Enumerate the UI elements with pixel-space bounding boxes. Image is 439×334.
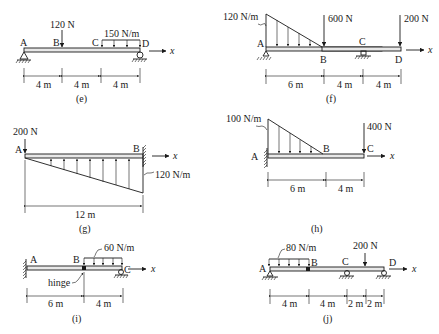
- span-label: 4 m: [337, 79, 353, 90]
- fixed-support-a: [23, 259, 26, 279]
- x-axis-label: x: [427, 44, 433, 55]
- distributed-load: [25, 158, 154, 193]
- span-label: 4 m: [376, 79, 392, 90]
- span-label: 2 m: [348, 298, 364, 309]
- span-label: 4 m: [36, 79, 52, 90]
- roller-support-d: [132, 52, 147, 62]
- diagram-g: 200 N 120 N/m A B x 12 m (g): [13, 126, 191, 235]
- hinge-marker: [306, 267, 310, 271]
- x-axis-label: x: [169, 45, 175, 56]
- distributed-load-label: 150 N/m: [104, 28, 140, 39]
- beam-e: [24, 48, 140, 52]
- point-load-label: 120 N: [50, 19, 75, 30]
- point-label-c: C: [367, 143, 374, 154]
- caption-f: (f): [326, 93, 336, 105]
- pin-support-a: [16, 52, 31, 63]
- distributed-load: [258, 14, 322, 47]
- roller-support-d: [376, 271, 391, 280]
- distributed-load-label: 60 N/m: [104, 242, 135, 253]
- beam-h: [268, 154, 364, 158]
- point-load-label: 200 N: [353, 240, 378, 251]
- point-load-label: 200 N: [13, 126, 38, 137]
- roller-support-c: [355, 51, 371, 59]
- point-label-b: B: [73, 254, 80, 265]
- span-label: 6 m: [290, 183, 306, 194]
- point-load-label: 400 N: [367, 121, 392, 132]
- beam-g: [25, 154, 143, 158]
- diagram-e: 120 N 150 N/m A B C D x 4 m 4 m 4 m: [16, 19, 175, 105]
- point-label-b: B: [133, 143, 140, 154]
- diagram-h: 100 N/m 400 N A B C x 6 m 4 m (h): [226, 113, 395, 235]
- point-label-d: D: [142, 38, 149, 49]
- diagram-i: hinge 60 N/m A B C x 6 m: [23, 242, 156, 325]
- distributed-load-label: 120 N/m: [223, 11, 259, 22]
- distributed-load: [102, 40, 140, 47]
- hinge-label: hinge: [48, 277, 71, 288]
- point-label-a: A: [251, 151, 259, 162]
- hinge-marker: [82, 266, 86, 270]
- roller-support-c: [339, 271, 354, 280]
- dimension-lines: [25, 160, 143, 213]
- point-label-d: D: [395, 54, 402, 65]
- x-axis-label: x: [150, 263, 156, 274]
- point-label-b: B: [311, 257, 318, 268]
- span-label: 6 m: [288, 79, 304, 90]
- pin-support-a: [257, 51, 271, 60]
- point-label-c: C: [124, 264, 131, 275]
- point-label-c: C: [359, 36, 366, 47]
- span-label: 4 m: [320, 298, 336, 309]
- point-label-a: A: [257, 38, 265, 49]
- span-label: 12 m: [75, 209, 96, 220]
- point-label-a: A: [30, 254, 38, 265]
- span-label: 4 m: [96, 298, 112, 309]
- x-axis-label: x: [172, 150, 178, 161]
- x-axis-label: x: [411, 263, 417, 274]
- beam-i: [27, 266, 122, 270]
- beam-j: [270, 267, 384, 271]
- distributed-load-label: 120 N/m: [155, 169, 191, 180]
- x-axis-label: x: [389, 150, 395, 161]
- point-label-c: C: [92, 37, 99, 48]
- point-label-a: A: [259, 263, 267, 274]
- point-label-a: A: [20, 37, 28, 48]
- caption-i: (i): [72, 313, 81, 325]
- point-label-d: D: [389, 257, 396, 268]
- span-label: 4 m: [282, 298, 298, 309]
- caption-j: (j): [323, 313, 332, 325]
- distributed-load-label: 100 N/m: [226, 113, 262, 124]
- point-label-a: A: [15, 144, 23, 155]
- diagram-j: 80 N/m 200 N A B C D x 4 m 4 m 2 m 2 m (…: [259, 240, 417, 325]
- span-label: 4 m: [113, 79, 129, 90]
- span-label: 6 m: [48, 298, 64, 309]
- diagram-f: 120 N/m 600 N 200 N A B C D x: [223, 11, 433, 105]
- span-label: 2 m: [367, 298, 383, 309]
- beam-diagrams: 120 N 150 N/m A B C D x 4 m 4 m 4 m: [0, 0, 439, 334]
- span-label: 4 m: [74, 79, 90, 90]
- caption-h: (h): [311, 223, 323, 235]
- caption-e: (e): [76, 93, 87, 105]
- caption-g: (g): [79, 223, 91, 235]
- point-load-label: 600 N: [328, 13, 353, 24]
- point-label-c: C: [342, 256, 349, 267]
- distributed-load: [256, 119, 323, 154]
- span-label: 4 m: [338, 183, 354, 194]
- point-label-b: B: [323, 143, 330, 154]
- point-label-b: B: [320, 54, 327, 65]
- fixed-support-a: [264, 148, 267, 168]
- distributed-load-label: 80 N/m: [286, 242, 317, 253]
- point-load-label: 200 N: [404, 13, 429, 24]
- point-label-b: B: [53, 37, 60, 48]
